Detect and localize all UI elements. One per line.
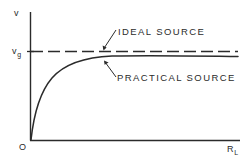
x-axis-label-subscript: L	[234, 149, 238, 156]
y-tick-label-vg-subscript: g	[17, 51, 21, 58]
ideal-source-leader-line	[104, 30, 117, 49]
origin-label: O	[19, 143, 26, 152]
ideal-source-arrowhead	[103, 46, 107, 51]
practical-source-curve	[31, 56, 238, 140]
y-tick-label-vg-base: v	[12, 46, 17, 56]
practical-source-annotation: PRACTICAL SOURCE	[117, 73, 236, 83]
x-axis-label-base: R	[227, 144, 234, 154]
ideal-source-annotation: IDEAL SOURCE	[118, 27, 205, 37]
y-axis-label: v	[14, 9, 19, 18]
y-tick-label-vg: vg	[12, 47, 21, 56]
practical-source-leader-line	[105, 62, 116, 77]
x-axis-label: RL	[227, 145, 238, 154]
figure-container: v vg O RL IDEAL SOURCE PRACTICAL SOURCE	[0, 0, 250, 164]
